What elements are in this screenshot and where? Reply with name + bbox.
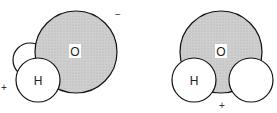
left-molecule: O H + − [1,9,121,102]
right-oxygen-label: O [216,45,225,59]
right-positive-sign: + [219,100,225,111]
left-positive-sign: + [1,82,7,93]
left-negative-sign: − [115,9,121,20]
left-oxygen-label: O [70,45,79,59]
right-hydrogen-label: H [190,74,199,88]
right-right-hydrogen-atom [229,58,273,102]
left-hydrogen-label: H [34,74,43,88]
right-molecule: O H + [172,11,273,111]
water-molecule-diagram: O H + − O H + [0,0,277,113]
